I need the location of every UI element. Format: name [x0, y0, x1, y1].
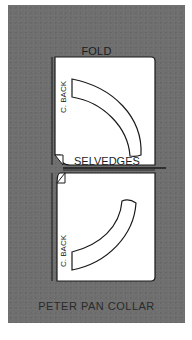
diagram-title: PETER PAN COLLAR: [8, 300, 185, 312]
pattern-panel: FOLD C. BACK C. BACK: [8, 5, 185, 323]
selvedges-label: SELVEDGES: [74, 155, 140, 167]
lower-piece-label: C. BACK: [59, 234, 68, 267]
upper-piece-label: C. BACK: [59, 80, 68, 113]
layout-diagram: C. BACK C. BACK SELVEDGES: [8, 5, 185, 323]
